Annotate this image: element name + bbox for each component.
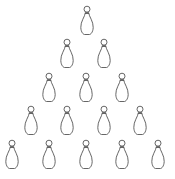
pin-body	[80, 80, 92, 102]
pin-head	[46, 140, 52, 146]
pin-head	[64, 39, 70, 45]
bowling-pin-icon	[80, 73, 92, 101]
pin-body	[152, 147, 164, 169]
bowling-pin-icon	[43, 140, 55, 168]
bowling-pin-icon	[61, 106, 73, 134]
pin-body	[81, 13, 93, 35]
bowling-pin-icon	[116, 140, 128, 168]
pin-head	[101, 106, 107, 112]
pin-head	[101, 39, 107, 45]
pin-body	[116, 147, 128, 169]
pin-body	[43, 80, 55, 102]
pin-body	[134, 113, 146, 135]
bowling-pin-icon	[98, 39, 110, 67]
pin-body	[6, 147, 18, 169]
pin-body	[61, 46, 73, 68]
pin-head	[83, 140, 89, 146]
pin-head	[9, 140, 15, 146]
bowling-pin-icon	[43, 73, 55, 101]
pin-head	[119, 73, 125, 79]
pin-head	[84, 6, 90, 12]
pin-head	[46, 73, 52, 79]
pin-head	[119, 140, 125, 146]
bowling-pin-icon	[116, 73, 128, 101]
pin-body	[98, 46, 110, 68]
pin-body	[116, 80, 128, 102]
pin-head	[137, 106, 143, 112]
bowling-pin-icon	[80, 140, 92, 168]
pin-body	[98, 113, 110, 135]
bowling-pin-icon	[6, 140, 18, 168]
bowling-pin-icon	[152, 140, 164, 168]
pin-body	[43, 147, 55, 169]
pin-head	[155, 140, 161, 146]
bowling-pin-icon	[61, 39, 73, 67]
pin-body	[25, 113, 37, 135]
bowling-pin-icon	[98, 106, 110, 134]
pin-head	[28, 106, 34, 112]
bowling-pin-icon	[134, 106, 146, 134]
pin-head	[64, 106, 70, 112]
pin-body	[80, 147, 92, 169]
bowling-pin-triangle	[0, 0, 175, 179]
bowling-pin-icon	[25, 106, 37, 134]
pin-head	[83, 73, 89, 79]
bowling-pin-icon	[81, 6, 93, 34]
pin-body	[61, 113, 73, 135]
